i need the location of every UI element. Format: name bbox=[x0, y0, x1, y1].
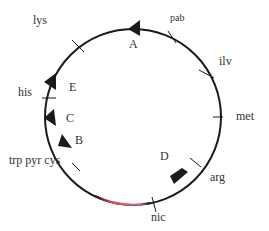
gene-label-pab: pab bbox=[170, 12, 184, 24]
segment-label-d: D bbox=[160, 150, 169, 162]
gene-map-diagram bbox=[0, 0, 269, 231]
gene-label-lys: lys bbox=[33, 14, 47, 26]
arrow-a-icon bbox=[128, 20, 140, 36]
tick-ilv bbox=[199, 70, 214, 78]
segment-label-b: B bbox=[75, 134, 83, 146]
gene-label-ilv: ilv bbox=[219, 55, 232, 67]
gene-label-his: his bbox=[18, 86, 32, 98]
segment-label-e: E bbox=[69, 81, 76, 93]
arrow-b-icon bbox=[58, 134, 72, 148]
gene-label-trp-pyr-cys: trp pyr cys bbox=[9, 154, 60, 166]
gene-label-arg: arg bbox=[210, 171, 225, 183]
tick-arg bbox=[190, 158, 201, 167]
segment-label-c: C bbox=[66, 112, 74, 124]
highlight-segment bbox=[95, 196, 150, 205]
tick-trp bbox=[72, 163, 80, 171]
gene-label-met: met bbox=[236, 110, 254, 122]
gene-label-nic: nic bbox=[151, 211, 166, 223]
segment-label-a: A bbox=[129, 38, 138, 50]
arrow-d-icon bbox=[170, 168, 188, 184]
